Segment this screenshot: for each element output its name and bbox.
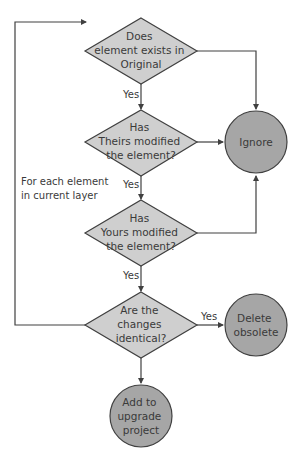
decision-d1-line3: Original [120, 58, 161, 70]
flowchart: Does element exists in Original Has Thei… [0, 0, 305, 458]
terminal-delete-line1: Delete [237, 312, 272, 324]
svg-text:Are the changes id: Are the changes identical? [116, 304, 166, 344]
decision-d1-line1: Does [126, 30, 152, 42]
terminal-ignore-label: Ignore [239, 136, 272, 148]
edge-label-d2-yes: Yes [122, 179, 139, 190]
loop-label-line2: in current layer [21, 190, 99, 201]
decision-d1: Does element exists in Original [85, 18, 197, 84]
edge-label-d4-yes: Yes [200, 311, 217, 322]
terminal-delete-line2: obsolete [234, 326, 279, 338]
terminal-add-to-upgrade-project: Add to upgrade project [110, 385, 172, 447]
decision-d2-line1: Has [129, 121, 149, 133]
edge-label-d3-yes: Yes [122, 270, 139, 281]
decision-d4-line3: identical? [116, 332, 166, 344]
decision-d2-line3: the element? [106, 149, 175, 161]
loop-label: For each element in current layer [21, 176, 112, 201]
decision-d2: Has Theirs modified the element? [85, 110, 197, 176]
decision-d1-line2: element exists in [94, 44, 184, 56]
terminal-ignore: Ignore [225, 111, 287, 173]
svg-text:Add to upgrade pro: Add to upgrade project [117, 396, 164, 436]
decision-d4-line2: changes [117, 318, 161, 330]
loop-connector [15, 22, 86, 325]
edge-label-d1-yes: Yes [122, 89, 139, 100]
decision-d3-line3: the element? [106, 240, 175, 252]
decision-d4-line1: Are the [120, 304, 158, 316]
d1-to-ignore-connector [197, 51, 256, 109]
d3-to-ignore-connector [197, 176, 256, 233]
terminal-add-line2: upgrade [117, 410, 161, 422]
terminal-delete-obsolete: Delete obsolete [225, 294, 287, 356]
decision-d3: Has Yours modified the element? [85, 200, 197, 266]
decision-d3-line2: Yours modified [100, 226, 178, 238]
loop-label-line1: For each element [21, 176, 108, 187]
decision-d3-line1: Has [129, 212, 149, 224]
decision-d2-line2: Theirs modified [98, 135, 181, 147]
terminal-add-line3: project [123, 424, 159, 436]
decision-d4: Are the changes identical? [85, 292, 197, 358]
svg-text:Ignore: Ignore [239, 136, 272, 148]
terminal-add-line1: Add to [122, 396, 156, 408]
